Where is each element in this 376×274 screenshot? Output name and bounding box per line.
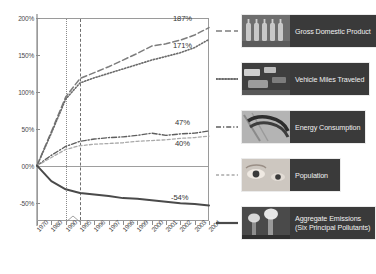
legend-label-line2: (Six Principal Pollutants) [295, 223, 370, 232]
y-tick-150pct: 150% [18, 51, 34, 58]
powerline-photo [242, 111, 290, 143]
legend-label-line1: Population [295, 171, 335, 180]
legend-item-0[interactable]: Gross Domestic Product [216, 14, 376, 48]
legend-item-3[interactable]: Population [216, 158, 340, 192]
dashed-line-swatch [216, 26, 238, 36]
dash-light-line-swatch [216, 170, 238, 180]
legend-label-line1: Aggregate Emissions [295, 214, 370, 223]
data-label-emissions: -54% [171, 193, 188, 202]
legend-item-4[interactable]: Aggregate Emissions(Six Principal Pollut… [216, 206, 375, 240]
chart-legend: Gross Domestic ProductVehicle Miles Trav… [216, 0, 364, 274]
legend-caption-0: Gross Domestic Product [290, 15, 376, 47]
y-tick-50pct: 50% [22, 125, 34, 132]
traffic-photo [242, 63, 290, 95]
series-line-2 [37, 131, 209, 166]
legend-caption-3: Population [290, 159, 340, 191]
y-axis-tick-labels: 200%150%100%50%00%-50% [0, 0, 34, 274]
legend-card-0: Gross Domestic Product [242, 15, 376, 47]
legend-card-4: Aggregate Emissions(Six Principal Pollut… [242, 207, 375, 239]
legend-caption-2: Energy Consumption [290, 111, 365, 143]
legend-card-3: Population [242, 159, 340, 191]
data-label-vmt: 171% [173, 41, 192, 50]
legend-caption-1: Vehicle Miles Traveled [290, 63, 369, 95]
legend-card-2: Energy Consumption [242, 111, 365, 143]
smokestacks-photo [242, 207, 290, 239]
bottles-photo [242, 15, 290, 47]
data-label-population: 40% [175, 139, 190, 148]
y-tick-00pct: 00% [22, 162, 34, 169]
legend-label-line1: Vehicle Miles Traveled [295, 75, 364, 84]
legend-label-line1: Gross Domestic Product [295, 27, 371, 36]
legend-card-1: Vehicle Miles Traveled [242, 63, 369, 95]
dash-dot-line-swatch [216, 122, 238, 132]
legend-item-1[interactable]: Vehicle Miles Traveled [216, 62, 369, 96]
data-label-energy: 47% [175, 118, 190, 127]
y-tick-200pct: 200% [18, 15, 34, 22]
y-tick--50pct: -50% [20, 199, 34, 206]
growth-vs-emissions-chart: 200%150%100%50%00%-50% 19701980199019951… [0, 0, 220, 274]
y-tick-100pct: 100% [18, 88, 34, 95]
data-label-gdp: 187% [173, 14, 192, 23]
eyes-photo [242, 159, 290, 191]
solid-line-swatch [216, 218, 238, 228]
dotted-line-swatch [216, 74, 238, 84]
legend-label-line1: Energy Consumption [295, 123, 360, 132]
legend-item-2[interactable]: Energy Consumption [216, 110, 365, 144]
legend-caption-4: Aggregate Emissions(Six Principal Pollut… [290, 207, 375, 239]
